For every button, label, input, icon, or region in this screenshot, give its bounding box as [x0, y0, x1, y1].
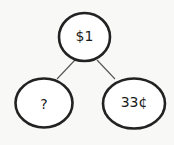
node-left-label: ?	[40, 96, 47, 112]
edge-root-right	[97, 60, 115, 79]
node-right-label: 33¢	[121, 94, 148, 110]
node-left: ?	[16, 79, 73, 128]
node-root-label: $1	[76, 28, 94, 44]
number-bond-diagram: $1 ? 33¢	[0, 0, 174, 145]
node-root: $1	[59, 13, 110, 61]
edge-root-left	[57, 60, 75, 79]
node-right: 33¢	[103, 79, 165, 129]
